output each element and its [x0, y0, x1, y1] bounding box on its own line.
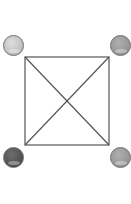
highlight-icon: [8, 49, 20, 53]
diagram-canvas: [0, 0, 131, 204]
node-bottom-left: [3, 147, 24, 168]
square-with-diagonals: [0, 0, 131, 204]
node-bottom-right: [110, 147, 131, 168]
node-top-left: [3, 35, 24, 56]
highlight-icon: [115, 49, 127, 53]
node-top-right: [110, 35, 131, 56]
highlight-icon: [8, 161, 20, 165]
highlight-icon: [115, 161, 127, 165]
